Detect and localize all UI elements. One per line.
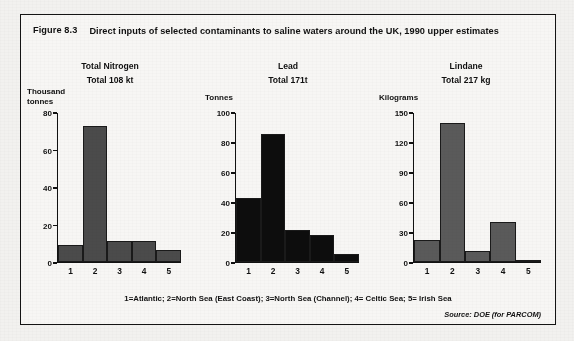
x-tick-label: 3 bbox=[285, 266, 310, 276]
y-tick-label-2-20: 20 bbox=[221, 229, 230, 238]
y-tick-2-100 bbox=[231, 112, 235, 113]
y-tick-3-60 bbox=[409, 202, 413, 203]
y-tick-2-0 bbox=[231, 262, 235, 263]
x-tick-label: 1 bbox=[414, 266, 439, 276]
x-tick-label: 4 bbox=[310, 266, 335, 276]
bar-slot bbox=[310, 113, 335, 262]
y-tick-label-1-80: 80 bbox=[43, 109, 52, 118]
y-tick-label-2-80: 80 bbox=[221, 139, 230, 148]
y-tick-label-3-90: 90 bbox=[399, 169, 408, 178]
y-tick-label-1-60: 60 bbox=[43, 146, 52, 155]
panel-subtitle-lead: Total 171t bbox=[199, 75, 377, 87]
panel-title-lindane: Lindane bbox=[377, 61, 555, 73]
y-tick-1-40 bbox=[53, 187, 57, 188]
bar-slot bbox=[132, 113, 157, 262]
y-tick-label-1-0: 0 bbox=[48, 259, 52, 268]
bar-slot bbox=[285, 113, 310, 262]
panel-title-lead: Lead bbox=[199, 61, 377, 73]
x-tick-labels-1: 12345 bbox=[58, 266, 181, 276]
bar-slot bbox=[334, 113, 359, 262]
x-tick-label: 2 bbox=[261, 266, 286, 276]
y-tick-3-120 bbox=[409, 142, 413, 143]
y-tick-label-3-60: 60 bbox=[399, 199, 408, 208]
bar-slot bbox=[516, 113, 541, 262]
y-tick-1-80 bbox=[53, 112, 57, 113]
bar bbox=[58, 245, 83, 262]
bar-slot bbox=[414, 113, 439, 262]
chart-panel-lead: Lead Total 171t Tonnes 12345 02040608010… bbox=[199, 59, 377, 287]
bar bbox=[107, 241, 132, 261]
x-tick-label: 1 bbox=[58, 266, 83, 276]
x-tick-label: 5 bbox=[156, 266, 181, 276]
bar bbox=[132, 241, 157, 261]
x-tick-label: 4 bbox=[132, 266, 157, 276]
y-tick-3-150 bbox=[409, 112, 413, 113]
y-tick-3-90 bbox=[409, 172, 413, 173]
panel-subtitle-lindane: Total 217 kg bbox=[377, 75, 555, 87]
y-tick-label-2-0: 0 bbox=[226, 259, 230, 268]
figure-title: Direct inputs of selected contaminants t… bbox=[89, 25, 498, 38]
chart-panel-total-nitrogen: Total Nitrogen Total 108 kt Thousand ton… bbox=[21, 59, 199, 287]
chart-panels: Total Nitrogen Total 108 kt Thousand ton… bbox=[21, 59, 555, 287]
y-tick-label-3-150: 150 bbox=[395, 109, 408, 118]
bar bbox=[261, 134, 286, 262]
y-tick-2-80 bbox=[231, 142, 235, 143]
bar bbox=[414, 240, 439, 262]
y-axis-unit-label-3: Kilograms bbox=[379, 93, 418, 103]
y-tick-label-1-20: 20 bbox=[43, 221, 52, 230]
x-tick-labels-2: 12345 bbox=[236, 266, 359, 276]
bar bbox=[310, 235, 335, 262]
y-tick-label-3-30: 30 bbox=[399, 229, 408, 238]
x-axis-2 bbox=[235, 262, 359, 263]
x-tick-label: 5 bbox=[334, 266, 359, 276]
y-tick-2-60 bbox=[231, 172, 235, 173]
bar-slot bbox=[58, 113, 83, 262]
panel-title-total-nitrogen: Total Nitrogen bbox=[21, 61, 199, 73]
bar bbox=[334, 254, 359, 261]
bar-slot bbox=[465, 113, 490, 262]
y-tick-label-2-40: 40 bbox=[221, 199, 230, 208]
bar-slot bbox=[107, 113, 132, 262]
chart-panel-lindane: Lindane Total 217 kg Kilograms 12345 030… bbox=[377, 59, 555, 287]
bar bbox=[156, 250, 181, 261]
y-tick-2-40 bbox=[231, 202, 235, 203]
bar bbox=[236, 198, 261, 262]
bar-group-2 bbox=[236, 113, 359, 262]
y-tick-label-2-100: 100 bbox=[217, 109, 230, 118]
x-tick-label: 4 bbox=[490, 266, 515, 276]
bar-slot bbox=[490, 113, 515, 262]
x-tick-label: 3 bbox=[465, 266, 490, 276]
y-tick-label-3-0: 0 bbox=[404, 259, 408, 268]
x-axis-1 bbox=[57, 262, 181, 263]
plot-area-total-nitrogen: 12345 020406080 bbox=[57, 113, 181, 263]
plot-area-lead: 12345 020406080100 bbox=[235, 113, 359, 263]
bar bbox=[516, 260, 541, 262]
bar bbox=[490, 222, 515, 262]
x-tick-label: 3 bbox=[107, 266, 132, 276]
bar bbox=[83, 126, 108, 262]
panel-subtitle-total-nitrogen: Total 108 kt bbox=[21, 75, 199, 87]
y-tick-label-1-40: 40 bbox=[43, 184, 52, 193]
figure-number: Figure 8.3 bbox=[33, 25, 77, 35]
y-tick-1-0 bbox=[53, 262, 57, 263]
x-tick-labels-3: 12345 bbox=[414, 266, 541, 276]
y-tick-3-0 bbox=[409, 262, 413, 263]
bar-group-3 bbox=[414, 113, 541, 262]
bar-group-1 bbox=[58, 113, 181, 262]
y-tick-label-3-120: 120 bbox=[395, 139, 408, 148]
x-tick-label: 2 bbox=[83, 266, 108, 276]
bar bbox=[285, 230, 310, 261]
y-axis-unit-label-2: Tonnes bbox=[205, 93, 233, 103]
x-axis-3 bbox=[413, 262, 541, 263]
figure-frame: Figure 8.3 Direct inputs of selected con… bbox=[20, 14, 556, 325]
bar-slot bbox=[261, 113, 286, 262]
series-key-footnote: 1=Atlantic; 2=North Sea (East Coast); 3=… bbox=[21, 294, 555, 303]
y-tick-1-20 bbox=[53, 225, 57, 226]
bar-slot bbox=[440, 113, 465, 262]
plot-area-lindane: 12345 0306090120150 bbox=[413, 113, 541, 263]
bar-slot bbox=[156, 113, 181, 262]
x-tick-label: 5 bbox=[516, 266, 541, 276]
y-axis-unit-label-1: Thousand tonnes bbox=[27, 87, 65, 106]
bar bbox=[465, 251, 490, 262]
bar-slot bbox=[236, 113, 261, 262]
